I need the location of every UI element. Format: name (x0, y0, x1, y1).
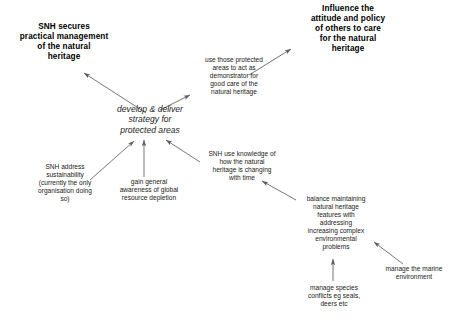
node-goal-influence-attitude-policy: Influence the attitude and policy of oth… (290, 4, 406, 54)
diagram-canvas: SNH secures practical management of the … (0, 0, 454, 323)
node-manage-marine-environment: manage the marine environment (376, 265, 452, 281)
node-use-protected-areas-demonstrator: use those protected areas to act as demo… (192, 56, 276, 96)
arrow-marine-to-balance (374, 242, 403, 264)
node-snh-use-knowledge: SNH use knowledge of how the natural her… (198, 150, 286, 182)
node-snh-address-sustainability: SNH address sustainability (currently th… (24, 163, 106, 203)
node-goal-practical-management: SNH secures practical management of the … (8, 22, 120, 62)
node-gain-general-awareness: gain general awareness of global resourc… (108, 178, 190, 202)
node-balance-maintaining-features: balance maintaining natural heritage fea… (298, 195, 374, 251)
arrow-knowledge-to-strategy (166, 140, 200, 162)
node-manage-species-conflicts: manage species conflicts eg seals, deers… (296, 284, 372, 308)
node-develop-deliver-strategy: develop & deliver strategy for protected… (100, 104, 200, 135)
arrow-balance-to-knowledge (262, 181, 296, 200)
